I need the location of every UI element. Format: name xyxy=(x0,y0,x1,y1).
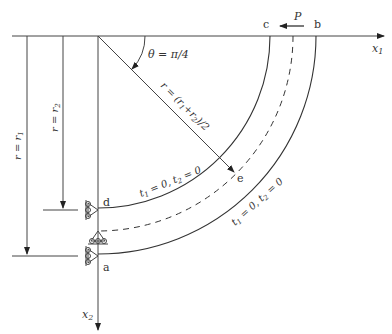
roller-support-d xyxy=(86,200,99,220)
roller-support-a xyxy=(86,246,99,266)
r2-dimension-label: r = r2 xyxy=(49,103,62,132)
point-a-label: a xyxy=(103,261,110,274)
point-e-label: e xyxy=(237,172,244,185)
x2-axis-label: x2 xyxy=(82,308,93,322)
diagram-svg: c b d a e P x1 x2 θ = π/4 r = r1 r = r2 … xyxy=(0,0,392,334)
load-p-label: P xyxy=(293,10,302,23)
angle-label: θ = π/4 xyxy=(148,48,189,61)
point-c-label: c xyxy=(263,18,269,31)
angle-arc xyxy=(132,36,145,69)
point-b-label: b xyxy=(314,18,321,31)
mid-radius-label: r = (r1+r2)/2 xyxy=(157,80,211,134)
curved-beam-diagram: c b d a e P x1 x2 θ = π/4 r = r1 r = r2 … xyxy=(0,0,392,334)
r1-dimension-label: r = r1 xyxy=(12,131,25,160)
point-d-label: d xyxy=(103,196,110,209)
x1-axis-label: x1 xyxy=(372,42,383,56)
inner-bc-label: t1 = 0, t2 = 0 xyxy=(138,164,204,201)
